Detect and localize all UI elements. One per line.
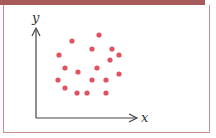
- data-point: [56, 52, 61, 57]
- data-point: [116, 71, 121, 76]
- x-axis: [36, 114, 137, 122]
- data-point: [74, 90, 79, 95]
- data-point: [62, 65, 67, 70]
- data-point: [62, 85, 67, 90]
- data-point: [94, 65, 99, 70]
- data-point: [69, 38, 74, 43]
- data-point: [84, 90, 89, 95]
- x-axis-label: x: [141, 110, 149, 125]
- data-point: [107, 57, 112, 62]
- data-point: [103, 90, 108, 95]
- data-point: [75, 69, 80, 74]
- y-axis-label: y: [31, 10, 40, 25]
- y-axis: [32, 28, 40, 118]
- data-point: [96, 32, 101, 37]
- data-point: [55, 77, 60, 82]
- data-point: [89, 77, 94, 82]
- data-point: [116, 52, 121, 57]
- data-point: [109, 46, 114, 51]
- scatter-plot: y x: [0, 0, 216, 138]
- data-point: [89, 46, 94, 51]
- data-point: [103, 77, 108, 82]
- data-points: [55, 32, 121, 95]
